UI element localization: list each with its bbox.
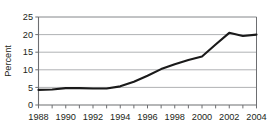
line-chart: 0510152025198819901992199419961998200020…: [0, 0, 267, 128]
x-tick-label: 1990: [56, 112, 76, 122]
x-tick-label: 1994: [110, 112, 130, 122]
y-tick-label: 20: [23, 30, 33, 40]
x-tick-label: 2004: [246, 112, 266, 122]
chart-canvas: 0510152025198819901992199419961998200020…: [0, 0, 267, 128]
y-tick-label: 25: [23, 12, 33, 22]
plot-frame: [38, 17, 257, 105]
y-tick-label: 5: [28, 83, 33, 93]
y-axis-tick-labels: 0510152025: [23, 12, 33, 110]
x-tick-label: 1992: [83, 112, 103, 122]
data-series-line: [39, 33, 257, 90]
x-tick-label: 1996: [137, 112, 157, 122]
x-axis-tick-labels: 198819901992199419961998200020022004: [28, 112, 266, 122]
x-tick-label: 1998: [165, 112, 185, 122]
y-axis-title: Percent: [3, 45, 13, 77]
x-tick-label: 2000: [192, 112, 212, 122]
x-tick-label: 2002: [219, 112, 239, 122]
x-tick-label: 1988: [28, 112, 48, 122]
y-tick-label: 10: [23, 65, 33, 75]
y-tick-label: 15: [23, 47, 33, 57]
y-tick-label: 0: [28, 100, 33, 110]
